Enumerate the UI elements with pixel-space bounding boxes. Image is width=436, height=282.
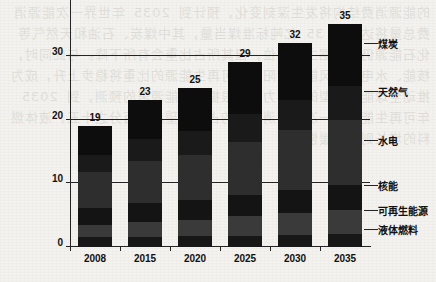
legend-leader-line bbox=[364, 229, 378, 230]
x-tick-mark bbox=[170, 247, 171, 251]
y-axis bbox=[70, 0, 71, 247]
x-axis-tick-label: 2035 bbox=[334, 253, 356, 264]
bar-stack[interactable]: 19 bbox=[78, 126, 112, 247]
legend-leader-line bbox=[364, 140, 378, 141]
bar-segment[interactable] bbox=[78, 126, 112, 155]
legend-label: 液体燃料 bbox=[378, 225, 418, 236]
bar-segment[interactable] bbox=[128, 161, 162, 203]
bar-segment[interactable] bbox=[278, 190, 312, 214]
bar-stack[interactable]: 23 bbox=[128, 100, 162, 247]
bar-segment[interactable] bbox=[228, 195, 262, 217]
bar-segment[interactable] bbox=[278, 130, 312, 189]
bar-segment[interactable] bbox=[128, 100, 162, 139]
bar-value-label: 25 bbox=[189, 74, 200, 85]
legend-item-1: 可再生能源 bbox=[378, 201, 428, 219]
stacked-bar-chart: 0102030402008192015232020252025292030322… bbox=[0, 0, 436, 282]
bar-segment[interactable] bbox=[178, 88, 212, 131]
legend-label: 煤炭 bbox=[378, 39, 398, 50]
x-tick-mark bbox=[220, 247, 221, 251]
legend-label: 核能 bbox=[378, 181, 398, 192]
y-tick-mark bbox=[66, 119, 70, 120]
bar-value-label: 29 bbox=[239, 48, 250, 59]
legend-item-2: 核能 bbox=[378, 176, 398, 194]
legend-item-3: 水电 bbox=[378, 131, 398, 149]
bar-segment[interactable] bbox=[78, 237, 112, 247]
legend-item-0: 液体燃料 bbox=[378, 220, 418, 238]
bar-segment[interactable] bbox=[328, 120, 362, 185]
gridline bbox=[70, 55, 370, 56]
bar-segment[interactable] bbox=[128, 237, 162, 247]
bar-segment[interactable] bbox=[278, 100, 312, 131]
legend-leader-line bbox=[364, 185, 378, 186]
bar-value-label: 35 bbox=[339, 10, 350, 21]
legend-label: 水电 bbox=[378, 136, 398, 147]
bar-segment[interactable] bbox=[78, 208, 112, 225]
legend-leader-line bbox=[364, 210, 378, 211]
bar-segment[interactable] bbox=[228, 62, 262, 114]
bar-stack[interactable]: 25 bbox=[178, 88, 212, 247]
bar-segment[interactable] bbox=[128, 222, 162, 237]
legend-label: 可再生能源 bbox=[378, 206, 428, 217]
y-tick-mark bbox=[66, 182, 70, 183]
bar-segment[interactable] bbox=[328, 86, 362, 120]
bar-segment[interactable] bbox=[128, 139, 162, 161]
bar-segment[interactable] bbox=[328, 24, 362, 86]
gridline bbox=[70, 119, 370, 120]
bar-stack[interactable]: 29 bbox=[228, 62, 262, 247]
legend-item-5: 煤炭 bbox=[378, 34, 398, 52]
y-axis-tick-label: 0 bbox=[57, 237, 63, 248]
bar-segment[interactable] bbox=[78, 155, 112, 173]
legend-leader-line bbox=[364, 43, 378, 44]
bar-segment[interactable] bbox=[328, 185, 362, 211]
x-tick-mark bbox=[270, 247, 271, 251]
x-axis-tick-label: 2015 bbox=[134, 253, 156, 264]
bar-segment[interactable] bbox=[278, 43, 312, 100]
x-axis-tick-label: 2020 bbox=[184, 253, 206, 264]
legend-item-4: 天然气 bbox=[378, 82, 408, 100]
bar-segment[interactable] bbox=[178, 131, 212, 155]
y-axis-tick-label: 20 bbox=[52, 109, 63, 120]
bar-segment[interactable] bbox=[328, 234, 362, 247]
bar-value-label: 32 bbox=[289, 29, 300, 40]
x-axis-tick-label: 2025 bbox=[234, 253, 256, 264]
bar-segment[interactable] bbox=[228, 142, 262, 195]
bar-segment[interactable] bbox=[228, 216, 262, 235]
bar-segment[interactable] bbox=[178, 220, 212, 237]
bar-segment[interactable] bbox=[228, 236, 262, 247]
bar-value-label: 19 bbox=[89, 112, 100, 123]
y-axis-tick-label: 30 bbox=[52, 45, 63, 56]
x-tick-mark bbox=[120, 247, 121, 251]
bar-segment[interactable] bbox=[278, 235, 312, 247]
bar-segment[interactable] bbox=[328, 210, 362, 234]
gridline bbox=[70, 182, 370, 183]
x-axis-tick-label: 2030 bbox=[284, 253, 306, 264]
x-tick-mark bbox=[70, 247, 71, 251]
bar-segment[interactable] bbox=[178, 155, 212, 200]
legend-label: 天然气 bbox=[378, 87, 408, 98]
plot-area: 0102030402008192015232020252025292030322… bbox=[70, 0, 370, 247]
x-tick-mark bbox=[320, 247, 321, 251]
bar-segment[interactable] bbox=[78, 172, 112, 208]
bar-segment[interactable] bbox=[278, 213, 312, 235]
y-tick-mark bbox=[66, 55, 70, 56]
legend-leader-line bbox=[364, 91, 378, 92]
y-axis-tick-label: 10 bbox=[52, 173, 63, 184]
bar-stack[interactable]: 35 bbox=[328, 24, 362, 247]
x-axis-tick-label: 2008 bbox=[84, 253, 106, 264]
bar-segment[interactable] bbox=[128, 203, 162, 221]
bar-segment[interactable] bbox=[78, 225, 112, 238]
bar-segment[interactable] bbox=[178, 200, 212, 220]
bar-segment[interactable] bbox=[228, 114, 262, 141]
bar-segment[interactable] bbox=[178, 236, 212, 247]
bar-stack[interactable]: 32 bbox=[278, 43, 312, 247]
bar-value-label: 23 bbox=[139, 86, 150, 97]
